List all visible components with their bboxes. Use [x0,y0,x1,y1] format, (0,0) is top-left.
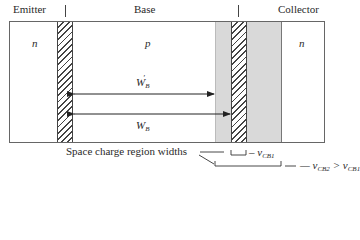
vcb1-label: – vCB1 [249,146,275,160]
space-charge-caption: Space charge region widths [66,145,187,157]
base-width-label: WB [136,119,149,133]
w-subscript: B [145,82,149,90]
w-symbol: W [136,119,145,131]
prime-mark: ′ [143,74,145,83]
w-subscript: B [145,125,149,133]
vcb2-gt-vcb1-label: — vCB2 > vCB1 [300,159,360,173]
effective-base-width-label: WB′ [136,76,151,90]
